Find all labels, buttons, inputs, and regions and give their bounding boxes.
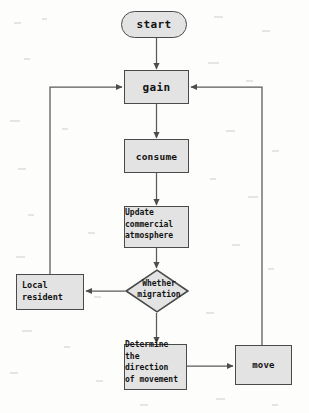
node-consume[interactable] <box>124 139 189 173</box>
edge-local-gain <box>50 87 122 274</box>
node-start[interactable] <box>121 11 187 38</box>
node-update-commercial-atmosphere[interactable] <box>124 206 189 248</box>
node-whether-migration[interactable] <box>125 269 189 313</box>
node-determine-direction-of-movement[interactable] <box>124 344 187 390</box>
flowchart-canvas: start gain consume Update commercial atm… <box>0 0 309 413</box>
node-gain[interactable] <box>124 70 189 104</box>
edge-move-gain <box>191 87 262 345</box>
node-local-resident[interactable] <box>16 274 84 310</box>
node-move[interactable] <box>235 345 292 385</box>
